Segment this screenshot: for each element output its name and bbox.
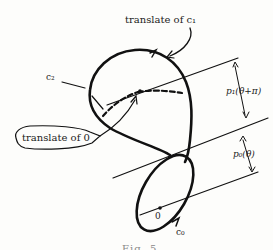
leader-c2-arrow — [92, 96, 103, 109]
label-p0: p₀(θ) — [233, 150, 255, 159]
label-p1: p₁(θ+π) — [226, 87, 261, 96]
label-c0: c₀ — [176, 228, 185, 237]
figure-caption: Fig. 5 — [122, 243, 157, 250]
label-translate-0: translate of 0 — [22, 133, 90, 143]
support-line-lower — [140, 172, 258, 215]
curve-c0 — [125, 146, 205, 241]
label-origin: 0 — [155, 212, 161, 221]
curve-translate-c1 — [90, 50, 192, 162]
label-translate-c1: translate of c₁ — [125, 15, 196, 25]
label-c2: c₂ — [46, 73, 55, 82]
leader-c2 — [62, 82, 85, 88]
diagram-canvas — [0, 0, 273, 250]
support-line-upper — [107, 58, 238, 105]
p1-arrowhead-bottom — [243, 112, 249, 118]
origin-point — [158, 206, 162, 210]
leader-translate-c1 — [170, 28, 191, 56]
translate-origin-point — [138, 89, 142, 93]
